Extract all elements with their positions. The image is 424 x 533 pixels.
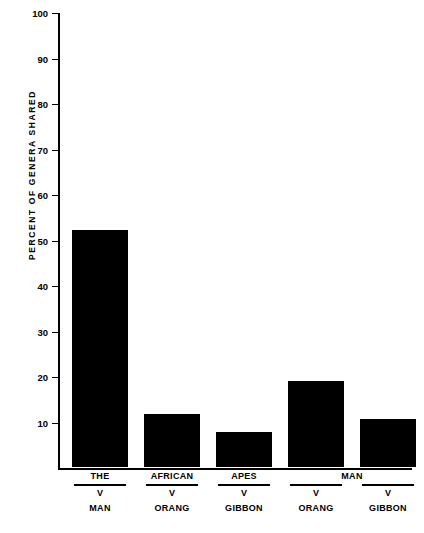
x-group-denominator: MAN bbox=[72, 501, 128, 515]
x-group-numerator: THE bbox=[72, 469, 128, 483]
y-tick-label: 20 bbox=[10, 372, 48, 383]
y-tick-mark bbox=[52, 195, 58, 196]
x-group-divider: V bbox=[288, 486, 344, 501]
y-tick-label: 80 bbox=[10, 99, 48, 110]
y-tick-mark bbox=[52, 104, 58, 105]
y-tick-mark bbox=[52, 59, 58, 60]
bar-african-v-orang bbox=[144, 414, 200, 467]
y-tick-label: 60 bbox=[10, 190, 48, 201]
y-axis-title: PERCENT OF GENERA SHARED bbox=[27, 55, 37, 295]
bar-man-v-orang bbox=[288, 381, 344, 467]
y-tick-mark bbox=[52, 286, 58, 287]
y-tick-label: 30 bbox=[10, 326, 48, 337]
x-group-numerator: APES bbox=[216, 469, 272, 483]
plot-area: 100 90 80 70 60 50 40 30 bbox=[58, 13, 412, 468]
x-group-denominator: GIBBON bbox=[360, 501, 416, 515]
x-group-denominator: ORANG bbox=[288, 501, 344, 515]
y-tick-mark bbox=[52, 241, 58, 242]
y-tick-label: 100 bbox=[10, 8, 48, 19]
x-group-the-v-man: THE V MAN bbox=[72, 469, 128, 515]
y-tick-mark bbox=[52, 332, 58, 333]
x-group-divider: V bbox=[144, 486, 200, 501]
y-tick-mark bbox=[52, 377, 58, 378]
y-tick-label: 40 bbox=[10, 281, 48, 292]
y-tick-mark bbox=[52, 423, 58, 424]
y-tick-mark bbox=[52, 150, 58, 151]
y-tick-label: 70 bbox=[10, 144, 48, 155]
x-group-denominator: ORANG bbox=[144, 501, 200, 515]
y-tick-label: 90 bbox=[10, 53, 48, 64]
x-group-divider: V bbox=[216, 486, 272, 501]
bar-apes-v-gibbon bbox=[216, 432, 272, 467]
x-group-african-v-orang: AFRICAN V ORANG bbox=[144, 469, 200, 515]
y-axis-line bbox=[58, 13, 60, 469]
y-tick-label: 10 bbox=[10, 417, 48, 428]
x-axis-group-labels: THE V MAN AFRICAN V ORANG APES V GIBBON … bbox=[58, 469, 412, 533]
bar-the-v-man bbox=[72, 230, 128, 467]
x-group-denominator: GIBBON bbox=[216, 501, 272, 515]
x-group-numerator: AFRICAN bbox=[144, 469, 200, 483]
bar-man-v-gibbon bbox=[360, 419, 416, 467]
y-tick-label: 50 bbox=[10, 235, 48, 246]
y-tick-mark bbox=[52, 13, 58, 14]
x-group-apes-v-gibbon: APES V GIBBON bbox=[216, 469, 272, 515]
x-group-divider: V bbox=[360, 486, 416, 501]
x-group-divider: V bbox=[72, 486, 128, 501]
bar-chart-figure: PERCENT OF GENERA SHARED 100 90 80 70 60… bbox=[0, 0, 424, 533]
x-span-numerator-man: MAN bbox=[288, 469, 416, 483]
